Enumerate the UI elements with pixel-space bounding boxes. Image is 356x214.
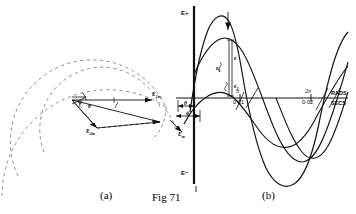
figure-caption: Fig 71: [152, 192, 180, 203]
arrowhead-e1m: [145, 98, 152, 103]
label-e-negative: E−: [181, 170, 189, 176]
label-phi-b: ϕ: [186, 111, 189, 117]
panel-a-label: (a): [100, 190, 112, 201]
label-phi-a: ϕ: [79, 100, 82, 106]
label-theta-a: θ: [88, 104, 91, 110]
xaxis-unit-secs: SECS: [331, 101, 346, 107]
label-curve-e: e: [234, 56, 236, 62]
dashed-arc-inner: [40, 67, 160, 152]
figure-drawing: [0, 0, 356, 214]
panel-a-vector-em: [72, 100, 160, 124]
label-curve-e1: e1: [216, 66, 220, 72]
arrowhead-em: [152, 119, 160, 124]
label-e1m: E1m: [152, 92, 161, 98]
panel-a-dashed-arcs: [2, 60, 166, 196]
panel-b-measure-bars: [227, 40, 234, 96]
panel-b-label: (b): [262, 190, 275, 201]
label-e-positive: E+: [181, 10, 189, 16]
panel-b-em-leadin: [166, 110, 176, 130]
panel-a-construction-lines: [72, 100, 160, 128]
figure-fig-71: E1m E2m θ ϕ (a) Fig 71 (b) E+ E− e e1 e2…: [0, 0, 356, 214]
label-theta-b: θ: [184, 101, 187, 107]
label-e2m: E2m: [86, 129, 95, 135]
panel-b-peak-arrow: [225, 12, 231, 30]
panel-b-curve-e1: [194, 38, 348, 162]
arrowhead-peak: [225, 23, 231, 31]
xtick-radians-2pi: 2π: [305, 88, 311, 94]
panel-b-curve-e: [190, 16, 348, 186]
xtick-seconds-002: 0·02: [302, 100, 313, 106]
xaxis-unit-rads: RADS: [331, 91, 347, 97]
xtick-radians-pi: π: [236, 88, 239, 94]
label-em-b: Em: [178, 132, 185, 138]
dashed-arc-outer: [2, 90, 166, 196]
xtick-seconds-001: 0·01: [233, 100, 244, 106]
